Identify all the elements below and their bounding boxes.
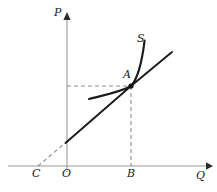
tangent-ray-line xyxy=(66,52,173,143)
y-axis-label: P xyxy=(54,7,61,18)
x-axis-arrow-icon xyxy=(206,162,213,170)
supply-curve-label: S xyxy=(137,33,145,44)
point-b-label: B xyxy=(127,168,135,179)
figure-canvas xyxy=(0,0,217,192)
point-a-label: A xyxy=(123,69,131,80)
x-axis-label: Q xyxy=(196,170,205,181)
origin-label: O xyxy=(62,168,71,179)
y-axis-arrow-icon xyxy=(63,12,70,20)
ray-dashed-extension xyxy=(38,142,67,167)
supply-curve-figure: P S A C O B Q xyxy=(0,0,217,192)
point-c-label: C xyxy=(32,168,40,179)
supply-curve-s xyxy=(89,41,145,100)
point-a-marker xyxy=(128,83,133,88)
